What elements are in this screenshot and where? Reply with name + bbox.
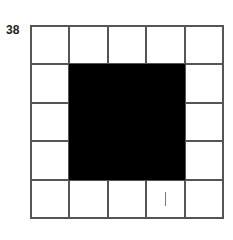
grid-cell [108,26,146,64]
grid-cell [146,64,184,102]
grid-cell [108,141,146,179]
grid [30,25,224,219]
grid-cell [146,180,184,218]
grid-cell [31,64,69,102]
grid-cell [146,103,184,141]
grid-cell [69,141,107,179]
grid-cell [69,64,107,102]
grid-cell [69,180,107,218]
grid-cell [185,141,223,179]
grid-cell [185,64,223,102]
grid-cell [185,26,223,64]
grid-cell [69,103,107,141]
grid-cell [31,26,69,64]
grid-cell [185,103,223,141]
grid-cell [69,26,107,64]
grid-cell [31,180,69,218]
tick-mark [165,192,166,206]
grid-cell [185,180,223,218]
grid-cell [108,64,146,102]
grid-cell [108,180,146,218]
grid-cell [108,103,146,141]
grid-cell [146,141,184,179]
grid-cell [31,103,69,141]
puzzle-number: 38 [6,23,19,37]
grid-cell [146,26,184,64]
grid-cell [31,141,69,179]
